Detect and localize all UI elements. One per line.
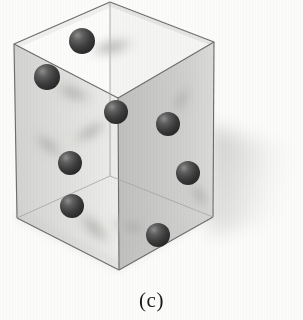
isometric-box-scene <box>0 0 303 320</box>
sphere-4 <box>156 112 180 136</box>
figure-caption: (c) <box>0 288 303 313</box>
sphere-6 <box>176 161 200 185</box>
sphere-1 <box>69 28 95 54</box>
sphere-7 <box>60 194 84 218</box>
sphere-2 <box>34 64 60 90</box>
sphere-5 <box>58 151 82 175</box>
sphere-3 <box>104 100 128 124</box>
sphere-8 <box>146 223 170 247</box>
box-cast-shadow <box>210 126 296 236</box>
figure-container: (c) <box>0 0 303 320</box>
